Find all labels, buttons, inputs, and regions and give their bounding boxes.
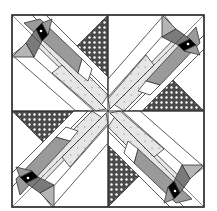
quilt-block (0, 0, 217, 211)
